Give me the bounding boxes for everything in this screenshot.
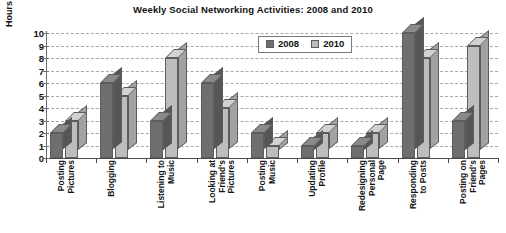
x-axis-tick-mark bbox=[96, 158, 97, 163]
bar-side bbox=[415, 17, 424, 149]
bar-side bbox=[329, 117, 338, 149]
bar-face bbox=[201, 83, 214, 158]
x-axis-tick-mark bbox=[398, 158, 399, 163]
bar-2008-7 bbox=[402, 33, 415, 158]
bar-2008-0 bbox=[50, 133, 63, 158]
bar-face bbox=[50, 133, 63, 158]
legend-item-2008: 2008 bbox=[266, 39, 299, 49]
x-axis-tick-mark bbox=[146, 158, 147, 163]
bar-face bbox=[402, 33, 415, 158]
bar-face bbox=[251, 133, 264, 158]
bar-2008-8 bbox=[452, 121, 465, 159]
x-axis-line bbox=[46, 158, 498, 159]
x-axis-tick-mark bbox=[448, 158, 449, 163]
bar-2010-4 bbox=[266, 146, 279, 159]
x-axis-label-4: Posting Music bbox=[258, 160, 272, 230]
x-axis-category-labels: Posting PicturesBloggingListening to Mus… bbox=[46, 160, 498, 233]
bar-side bbox=[480, 29, 489, 149]
bar-side bbox=[430, 42, 439, 149]
y-axis-title: Hours Per Week bbox=[2, 0, 16, 55]
bar-2008-2 bbox=[150, 121, 163, 159]
bar-side bbox=[379, 117, 388, 149]
x-axis-tick-mark bbox=[297, 158, 298, 163]
x-axis-tick-mark bbox=[498, 158, 499, 163]
bar-2008-6 bbox=[351, 146, 364, 159]
x-axis-label-0: Posting Pictures bbox=[57, 160, 71, 230]
bar-face bbox=[150, 121, 163, 159]
bar-face bbox=[266, 146, 279, 159]
bar-2008-3 bbox=[201, 83, 214, 158]
x-axis-label-6: Redesigning Personal Page bbox=[358, 160, 372, 230]
x-axis-label-3: Looking at Friend's Pictures bbox=[208, 160, 222, 230]
bar-chart: Weekly Social Networking Activities: 200… bbox=[0, 0, 506, 233]
legend-item-2010: 2010 bbox=[311, 39, 344, 49]
chart-title: Weekly Social Networking Activities: 200… bbox=[0, 4, 506, 15]
bar-face bbox=[452, 121, 465, 159]
x-axis-tick-mark bbox=[247, 158, 248, 163]
x-axis-tick-mark bbox=[197, 158, 198, 163]
legend-swatch-2008-icon bbox=[266, 40, 274, 48]
bar-face bbox=[301, 146, 314, 159]
x-axis-label-5: Updating Profile bbox=[308, 160, 322, 230]
x-axis-label-8: Posting on Friend's Pages bbox=[459, 160, 473, 230]
bar-face bbox=[351, 146, 364, 159]
x-axis-tick-mark bbox=[46, 158, 47, 163]
bar-2008-5 bbox=[301, 146, 314, 159]
bar-2008-1 bbox=[100, 83, 113, 158]
x-axis-label-2: Listening to Music bbox=[157, 160, 171, 230]
x-axis-tick-mark bbox=[347, 158, 348, 163]
x-axis-label-7: Responding to Posts bbox=[409, 160, 423, 230]
bar-2008-4 bbox=[251, 133, 264, 158]
x-axis-label-1: Blogging bbox=[107, 160, 121, 230]
legend-label-2010: 2010 bbox=[323, 39, 344, 49]
bar-side bbox=[178, 42, 187, 149]
legend-label-2008: 2008 bbox=[278, 39, 299, 49]
legend-swatch-2010-icon bbox=[311, 40, 319, 48]
bar-face bbox=[100, 83, 113, 158]
chart-legend: 2008 2010 bbox=[258, 36, 352, 53]
